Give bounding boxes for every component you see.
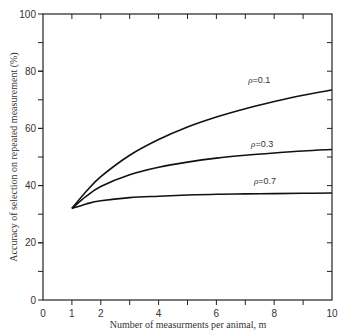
- series-curve-0: [72, 90, 332, 208]
- series-label-0: ρ=0.1: [247, 75, 270, 85]
- y-tick-label: 40: [25, 180, 37, 191]
- y-tick-label: 80: [25, 66, 37, 77]
- plot-frame: [43, 14, 332, 300]
- x-tick-label: 10: [326, 308, 338, 319]
- x-tick-label: 4: [156, 308, 162, 319]
- series-label-1: ρ=0.3: [250, 139, 273, 149]
- series-label-2: ρ=0.7: [253, 176, 276, 186]
- x-tick-label: 6: [214, 308, 220, 319]
- x-tick-label: 1: [69, 308, 75, 319]
- x-axis-title: Number of measurments per animal, m: [110, 319, 267, 330]
- x-tick-label: 0: [40, 308, 46, 319]
- plot-border: [43, 14, 332, 300]
- y-tick-label: 60: [25, 123, 37, 134]
- line-chart: 01246810020406080100 ρ=0.1ρ=0.3ρ=0.7 Num…: [0, 0, 346, 335]
- series-curves: [72, 90, 332, 208]
- y-tick-label: 20: [25, 237, 37, 248]
- y-tick-label: 0: [30, 295, 36, 306]
- y-tick-label: 100: [19, 9, 36, 20]
- y-axis-title: Accuracy of selection on repeated measur…: [8, 52, 20, 261]
- series-curve-2: [72, 193, 332, 208]
- x-tick-label: 2: [98, 308, 104, 319]
- x-tick-label: 8: [271, 308, 277, 319]
- series-labels: ρ=0.1ρ=0.3ρ=0.7: [247, 75, 276, 187]
